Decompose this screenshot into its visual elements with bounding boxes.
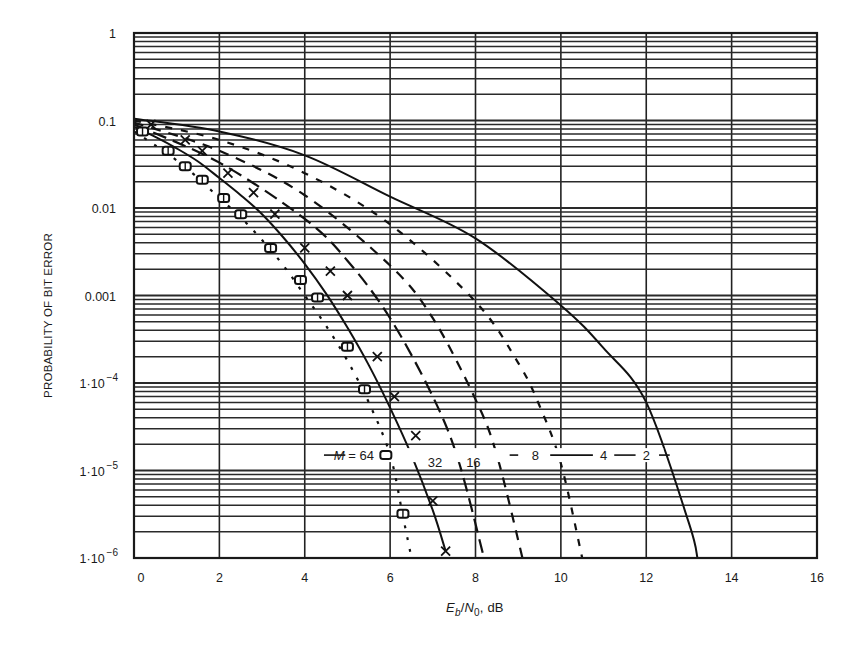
x-tick-label: 12 [639,571,653,585]
x-axis-label-N: N [464,600,474,615]
y-tick-label: 1·10−5 [80,460,119,479]
grid-lines [134,33,817,558]
y-tick-label: 0.001 [85,290,116,304]
x-tick-label: 4 [301,571,308,585]
curve-m32 [134,127,446,551]
y-axis-label: PROBABILITY OF BIT ERROR [42,233,54,398]
x-axis-label-unit: , dB [480,600,504,615]
label-m64: M = 64 [334,448,374,463]
x-marker [223,169,232,178]
x-tick-label: 16 [810,571,824,585]
square-marker [380,451,391,459]
x-marker [326,267,335,276]
ber-curves [134,119,697,558]
curve-labels: M = 643216842 [324,448,670,470]
x-axis-label-E: E [446,600,455,615]
curve-m2 [134,119,697,558]
x-tick-label: 2 [216,571,223,585]
x-tick-label: 0 [138,571,145,585]
y-tick-label: 0.1 [99,115,116,129]
x-axis-label: Eb/N0, dB [446,600,504,618]
x-tick-label: 6 [387,571,394,585]
label-m8: 8 [532,448,539,463]
label-m16: 16 [466,455,480,470]
label-m32: 32 [428,455,442,470]
y-tick-label: 1·10−6 [80,547,119,566]
label-m4: 4 [600,448,607,463]
x-tick-label: 10 [554,571,568,585]
x-marker [411,431,420,440]
x-marker [249,188,258,197]
x-tick-label: 14 [725,571,739,585]
ber-chart: M = 643216842 10.10.010.0011·10−41·10−51… [0,0,856,647]
y-tick-label: 1 [109,27,116,41]
x-marker [270,210,279,219]
y-axis-ticks: 10.10.010.0011·10−41·10−51·10−6 [80,27,119,566]
y-tick-label: 0.01 [92,202,116,216]
curve-m4 [134,121,582,559]
x-tick-label: 8 [472,571,479,585]
curve-m8 [134,122,522,558]
x-axis-ticks: 0246810121416 [138,571,824,585]
y-tick-label: 1·10−4 [80,372,119,391]
label-m2: 2 [643,448,650,463]
